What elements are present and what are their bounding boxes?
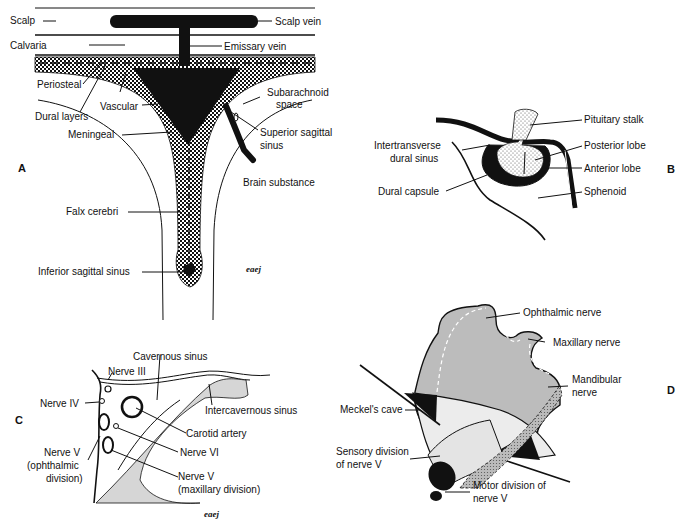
label-nerve-v-oph-3: division) [46, 473, 83, 484]
label-ophthalmic-nerve: Ophthalmic nerve [523, 307, 602, 318]
label-calvaria: Calvaria [10, 40, 47, 51]
nerve-iv [100, 399, 105, 404]
label-mandibular-2: nerve [572, 387, 597, 398]
label-periosteal: Periosteal [37, 79, 81, 90]
label-vascular: Vascular [100, 101, 139, 112]
label-nerve-v-oph-2: (ophthalmic [27, 460, 79, 471]
label-sensory-1: Sensory division [336, 446, 409, 457]
label-subarachnoid-1: Subarachnoid [267, 87, 329, 98]
label-falx-cerebri: Falx cerebri [66, 206, 118, 217]
nerve-vi [114, 424, 119, 429]
label-sphenoid: Sphenoid [584, 186, 626, 197]
label-inferior-sagittal-sinus: Inferior sagittal sinus [38, 266, 130, 277]
label-dural-capsule: Dural capsule [378, 186, 440, 197]
carotid-artery [122, 397, 142, 417]
panel-letter-b: B [667, 163, 675, 175]
label-nerve-vi: Nerve VI [180, 447, 219, 458]
leader-subarachnoid [243, 97, 260, 104]
label-cavernous-sinus: Cavernous sinus [133, 351, 207, 362]
leader-nerve-iv [85, 402, 99, 403]
label-motor-1: Motor division of [473, 480, 546, 491]
label-nerve-v-max-1: Nerve V [178, 471, 214, 482]
label-scalp-vein: Scalp vein [275, 16, 321, 27]
panel-letter-d: D [667, 384, 675, 396]
label-subarachnoid-2: space [276, 99, 303, 110]
label-nerve-v-oph-1: Nerve V [44, 447, 80, 458]
leader-superior-sagittal [222, 106, 258, 130]
label-nerve-iv: Nerve IV [40, 398, 79, 409]
panel-a: Scalp Scalp vein Calvaria Emissary vein … [10, 8, 332, 320]
label-intercavernous-sinus: Intercavernous sinus [205, 405, 297, 416]
panel-b: Pituitary stalk Intertransverse dural si… [374, 109, 675, 240]
anatomy-figure: Scalp Scalp vein Calvaria Emissary vein … [0, 0, 687, 529]
artist-signature-a: eaej [246, 264, 261, 274]
label-intertransverse-2: dural sinus [390, 153, 438, 164]
label-meningeal: Meningeal [68, 129, 114, 140]
label-mandibular-1: Mandibular [572, 374, 622, 385]
emissary-vein [179, 26, 190, 66]
artist-signature-c: eaej [204, 509, 219, 519]
label-maxillary-nerve: Maxillary nerve [553, 337, 621, 348]
label-brain-substance: Brain substance [243, 177, 315, 188]
label-superior-sagittal-1: Superior sagittal [260, 127, 332, 138]
label-posterior-lobe: Posterior lobe [584, 140, 646, 151]
label-dural-layers: Dural layers [35, 111, 88, 122]
label-carotid-artery: Carotid artery [186, 428, 247, 439]
label-scalp: Scalp [10, 15, 35, 26]
label-pituitary-stalk: Pituitary stalk [584, 114, 644, 125]
label-nerve-iii: Nerve III [108, 366, 146, 377]
cerebral-vein [226, 106, 253, 160]
nerve-iii [105, 386, 111, 392]
leader-meningeal [122, 132, 172, 135]
label-superior-sagittal-2: sinus [260, 140, 283, 151]
label-sensory-2: of nerve V [336, 459, 382, 470]
motor-root-cut [430, 491, 442, 501]
label-emissary-vein: Emissary vein [224, 41, 286, 52]
label-anterior-lobe: Anterior lobe [584, 163, 641, 174]
panel-letter-a: A [18, 162, 26, 174]
leader-dural-capsule [446, 175, 487, 191]
label-intertransverse-1: Intertransverse [374, 140, 441, 151]
label-meckels-cave: Meckel's cave [340, 404, 403, 415]
nerve-v-ophthalmic [99, 414, 109, 430]
leader-carotid [136, 408, 186, 433]
panel-letter-c: C [15, 414, 23, 426]
panel-d: Ophthalmic nerve Maxillary nerve Mandibu… [336, 305, 675, 504]
label-motor-2: nerve V [473, 493, 508, 504]
label-nerve-v-max-2: (maxillary division) [178, 484, 260, 495]
panel-c: Cavernous sinus Nerve III Nerve IV Inter… [15, 351, 297, 519]
leader-pituitary-stalk [530, 120, 582, 125]
